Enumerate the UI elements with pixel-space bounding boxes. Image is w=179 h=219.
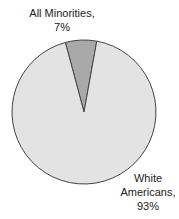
label-minorities-line1: All Minorities, xyxy=(29,7,94,19)
label-white-value: 93% xyxy=(137,200,159,212)
pie-chart: All Minorities, 7% White Americans, 93% xyxy=(0,0,179,219)
label-minorities-value: 7% xyxy=(54,21,70,33)
label-white-line2: Americans, xyxy=(120,186,175,198)
label-white-line1: White xyxy=(134,172,162,184)
